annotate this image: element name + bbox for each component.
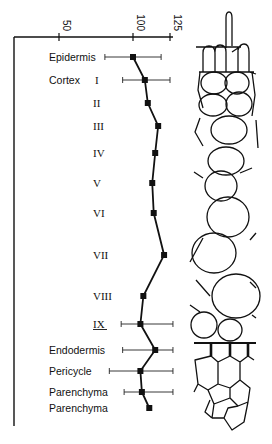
tick-label: 125 bbox=[172, 14, 183, 31]
tissue-label: Pericycle bbox=[49, 365, 92, 377]
cortex-layer-label: VIII bbox=[93, 290, 112, 302]
cortex-layer-label: V bbox=[93, 177, 101, 189]
data-point bbox=[142, 77, 148, 83]
data-point bbox=[152, 150, 158, 156]
data-point bbox=[137, 321, 143, 327]
data-line bbox=[133, 57, 164, 408]
root-hair bbox=[226, 12, 232, 48]
data-point bbox=[149, 180, 155, 186]
error-bars bbox=[105, 54, 173, 395]
data-point bbox=[140, 293, 146, 299]
cortex-layer-label: IV bbox=[93, 147, 105, 159]
cortex-layer-label: III bbox=[93, 120, 104, 132]
tissue-label: Parenchyma bbox=[49, 386, 108, 398]
cortex-layer-label: VI bbox=[93, 207, 105, 219]
cortex-layer-label: VII bbox=[93, 249, 109, 261]
cortex-layer-label: IX bbox=[93, 318, 105, 330]
data-point bbox=[145, 100, 151, 106]
data-point bbox=[130, 54, 136, 60]
axes bbox=[14, 37, 173, 426]
data-point bbox=[152, 347, 158, 353]
data-point bbox=[161, 252, 167, 258]
tissue-label: Epidermis bbox=[49, 51, 96, 63]
data-point bbox=[155, 123, 161, 129]
tick-label: 100 bbox=[135, 14, 146, 31]
tick-label: 50 bbox=[61, 20, 72, 32]
tissue-label: Cortex bbox=[49, 74, 81, 86]
tissue-label: Endodermis bbox=[49, 344, 105, 356]
data-point bbox=[151, 210, 157, 216]
vascular-parenchyma-cells bbox=[194, 356, 254, 430]
root-tissue-chart: 50100125 EpidermisCortexIIIIIIIVVVIVIIVI… bbox=[0, 0, 272, 444]
tissue-label: Parenchyma bbox=[49, 402, 108, 414]
cortex-layer-label: I bbox=[95, 74, 99, 86]
cortex-layer-label: II bbox=[93, 97, 101, 109]
data-point bbox=[139, 389, 145, 395]
root-tissue-drawing bbox=[190, 12, 260, 430]
data-point bbox=[146, 405, 152, 411]
data-point bbox=[137, 368, 143, 374]
data-points bbox=[130, 54, 167, 411]
epidermis-cells bbox=[196, 44, 256, 74]
category-labels: EpidermisCortexIIIIIIIVVVIVIIVIIIIXEndod… bbox=[49, 51, 112, 414]
